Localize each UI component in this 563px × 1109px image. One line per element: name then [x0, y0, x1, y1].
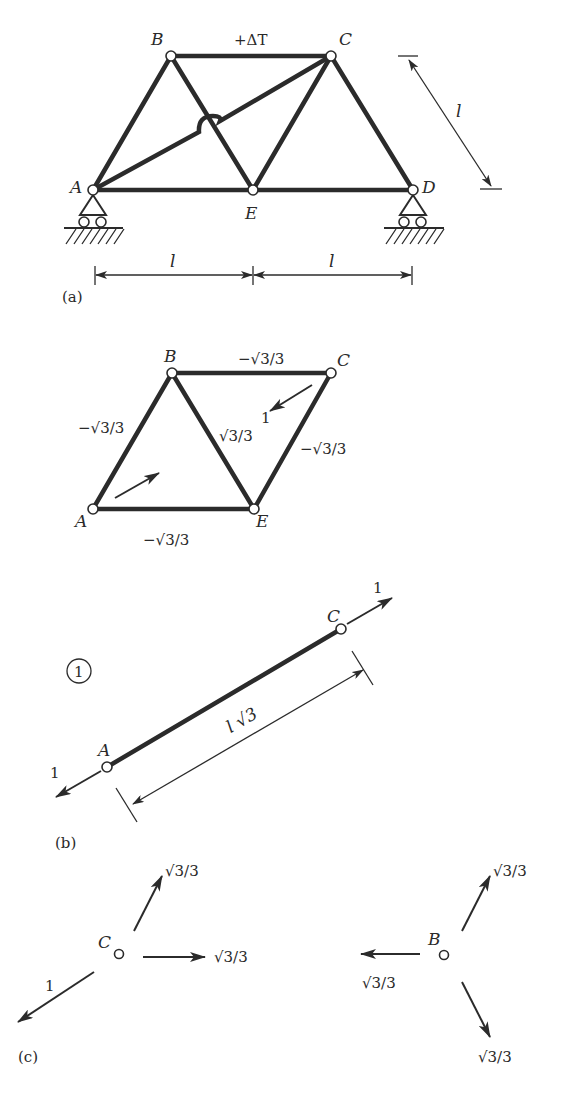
label-A: A — [68, 177, 82, 197]
force-A-label: 1 — [50, 764, 60, 782]
caption-c: (c) — [18, 1048, 38, 1066]
dimension-side-length: l — [398, 56, 502, 189]
joint-E — [248, 185, 258, 195]
figure-b-truss: B C A E −√3/3 −√3/3 √3/3 −√3/3 −√3/3 1 — [73, 346, 350, 549]
joint-C — [326, 368, 336, 378]
force-arrow-down-left — [18, 972, 94, 1022]
roller-support-D — [384, 195, 444, 244]
member-id-badge: 1 — [67, 659, 91, 683]
force-arrow-up — [462, 876, 490, 931]
joints — [88, 51, 418, 195]
free-body-node-C: C √3/3 √3/3 1 — [18, 862, 248, 1022]
roller-support-A — [64, 195, 124, 244]
force-down-label: √3/3 — [478, 1048, 512, 1066]
dimension-side-label: l — [456, 101, 461, 121]
force-arrow-C — [347, 598, 392, 624]
force-up-label: √3/3 — [165, 862, 199, 880]
label-C: C — [98, 932, 111, 952]
free-body-node-B: B √3/3 √3/3 √3/3 — [361, 862, 527, 1066]
joint-A — [102, 762, 112, 772]
force-BC: −√3/3 — [238, 350, 284, 368]
label-B: B — [163, 346, 177, 366]
truss-diagram: A B C D E +ΔT l l l (a) — [0, 0, 563, 1109]
joint-B — [166, 51, 176, 61]
force-arrow-up — [134, 876, 162, 931]
caption-b: (b) — [55, 834, 76, 852]
force-arrow-A — [56, 771, 101, 797]
figure-c: C √3/3 √3/3 1 B √3/3 √3/3 √3/3 (c) — [18, 862, 527, 1066]
figure-b-member: 1 1 C A l √3 1 (b) — [50, 579, 392, 852]
member-EC — [253, 56, 331, 190]
unit-load-arrow-A — [115, 473, 159, 498]
force-AB: −√3/3 — [78, 419, 124, 437]
member-AC — [107, 629, 341, 767]
member-CD — [331, 56, 413, 190]
force-AE: −√3/3 — [143, 531, 189, 549]
unit-load-label: 1 — [261, 409, 271, 427]
joint-C — [326, 51, 336, 61]
label-B: B — [427, 929, 441, 949]
force-C-label: 1 — [373, 579, 383, 597]
joint-A — [88, 185, 98, 195]
force-right-label: √3/3 — [214, 948, 248, 966]
label-D: D — [421, 177, 436, 197]
force-up-label: √3/3 — [493, 862, 527, 880]
force-down-left-label: 1 — [45, 977, 55, 995]
truss-members — [93, 56, 413, 190]
label-C: C — [327, 606, 340, 626]
label-E: E — [255, 511, 269, 531]
label-B: B — [150, 29, 164, 49]
caption-a: (a) — [62, 288, 83, 306]
label-A: A — [73, 511, 87, 531]
label-C: C — [337, 350, 350, 370]
force-CE: −√3/3 — [300, 440, 346, 458]
dimension-span-left-label: l — [170, 251, 175, 271]
temperature-change-label: +ΔT — [234, 31, 267, 49]
force-left-label: √3/3 — [362, 974, 396, 992]
figure-a: A B C D E +ΔT l l l (a) — [62, 29, 502, 306]
unit-load-arrow-C — [270, 385, 312, 411]
joint-B — [440, 951, 449, 960]
member-BE — [171, 56, 253, 190]
label-A: A — [96, 740, 110, 760]
joint-B — [167, 368, 177, 378]
dimension-span-right-label: l — [329, 251, 334, 271]
label-C: C — [339, 29, 352, 49]
dimension-span: l l — [95, 251, 412, 285]
joint-A — [88, 504, 98, 514]
force-arrow-down — [462, 982, 490, 1037]
member-id-label: 1 — [74, 663, 84, 681]
joint-C — [115, 950, 124, 959]
member-length-label: l √3 — [222, 703, 260, 737]
label-E: E — [244, 203, 258, 223]
joint-D — [408, 185, 418, 195]
force-BE: √3/3 — [219, 427, 253, 445]
